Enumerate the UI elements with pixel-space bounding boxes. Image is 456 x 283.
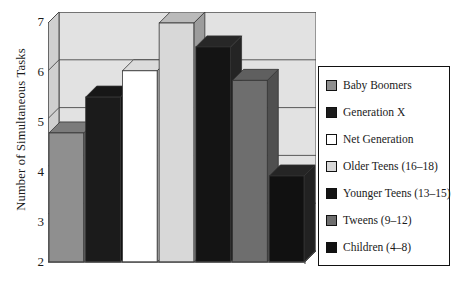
y-tick-5: 5 [24,117,44,127]
y-tick-4: 4 [24,167,44,177]
bar-chart-svg [48,12,316,264]
legend-label: Children (4–8) [343,242,411,254]
legend-swatch-icon [326,80,337,91]
y-tick-3: 3 [24,217,44,227]
y-tick-6: 6 [24,67,44,77]
legend-item-baby-boomers[interactable]: Baby Boomers [326,72,444,99]
legend-item-children[interactable]: Children (4–8) [326,234,444,261]
chart-figure: Number of Simultaneous Tasks 7 6 5 4 3 2… [0,0,456,283]
legend-label: Younger Teens (13–15) [343,188,451,200]
legend-item-older-teens[interactable]: Older Teens (16–18) [326,153,444,180]
legend-swatch-icon [326,215,337,226]
y-axis-tick-labels: 7 6 5 4 3 2 [24,0,44,283]
y-tick-2: 2 [24,257,44,267]
legend-swatch-icon [326,161,337,172]
y-tick-7: 7 [24,17,44,27]
legend-item-generation-x[interactable]: Generation X [326,99,444,126]
bar-6 [269,165,315,262]
legend-item-net-generation[interactable]: Net Generation [326,126,444,153]
legend-swatch-icon [326,134,337,145]
legend-swatch-icon [326,188,337,199]
legend-label: Generation X [343,107,405,119]
legend-item-younger-teens[interactable]: Younger Teens (13–15) [326,180,444,207]
legend-label: Older Teens (16–18) [343,161,438,173]
legend-swatch-icon [326,107,337,118]
legend-label: Baby Boomers [343,80,412,92]
legend-swatch-icon [326,242,337,253]
plot-area [48,12,316,264]
legend: Baby Boomers Generation X Net Generation… [318,66,450,266]
legend-label: Net Generation [343,134,414,146]
legend-label: Tweens (9–12) [343,215,412,227]
legend-item-tweens[interactable]: Tweens (9–12) [326,207,444,234]
